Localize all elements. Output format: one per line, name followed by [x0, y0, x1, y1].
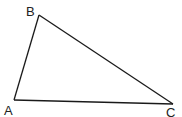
- vertex-label-b: B: [26, 4, 35, 19]
- edge-ca: [14, 100, 173, 104]
- edge-bc: [39, 15, 173, 104]
- triangle-diagram: A B C: [0, 0, 182, 117]
- vertex-label-a: A: [4, 103, 13, 117]
- edge-ab: [14, 15, 39, 100]
- vertex-label-c: C: [166, 105, 175, 117]
